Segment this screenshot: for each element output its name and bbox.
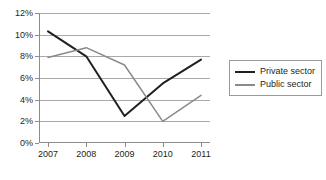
series-line — [48, 31, 201, 116]
line-chart-figure: 12%10%8%6%4%2%0% 20072008200920102011 Pr… — [0, 0, 326, 180]
legend-item[interactable]: Private sector — [235, 65, 315, 78]
x-tick-mark — [125, 143, 126, 147]
x-tick-mark — [201, 143, 202, 147]
x-tick-label: 2010 — [153, 150, 173, 159]
y-tick-label: 10% — [15, 30, 33, 39]
x-tick-label: 2007 — [38, 150, 58, 159]
x-tick-mark — [48, 143, 49, 147]
legend-swatch-icon — [235, 84, 255, 86]
x-tick-label: 2009 — [114, 150, 134, 159]
x-tick-mark — [86, 143, 87, 147]
y-tick-label: 8% — [20, 52, 33, 61]
x-tick-mark — [163, 143, 164, 147]
series-lines — [39, 13, 210, 143]
y-tick-label: 0% — [20, 139, 33, 148]
y-tick-label: 6% — [20, 74, 33, 83]
y-tick-label: 2% — [20, 117, 33, 126]
plot-area: 12%10%8%6%4%2%0% 20072008200920102011 — [39, 13, 210, 143]
y-tick-mark — [35, 143, 39, 144]
y-tick-label: 4% — [20, 95, 33, 104]
x-tick-label: 2011 — [191, 150, 210, 159]
series-line — [48, 48, 201, 122]
chart-legend: Private sectorPublic sector — [229, 60, 322, 96]
y-tick-label: 12% — [15, 9, 33, 18]
legend-swatch-icon — [235, 71, 255, 73]
legend-item-label: Private sector — [260, 67, 315, 76]
x-tick-label: 2008 — [76, 150, 96, 159]
legend-item[interactable]: Public sector — [235, 78, 315, 91]
legend-item-label: Public sector — [260, 80, 312, 89]
